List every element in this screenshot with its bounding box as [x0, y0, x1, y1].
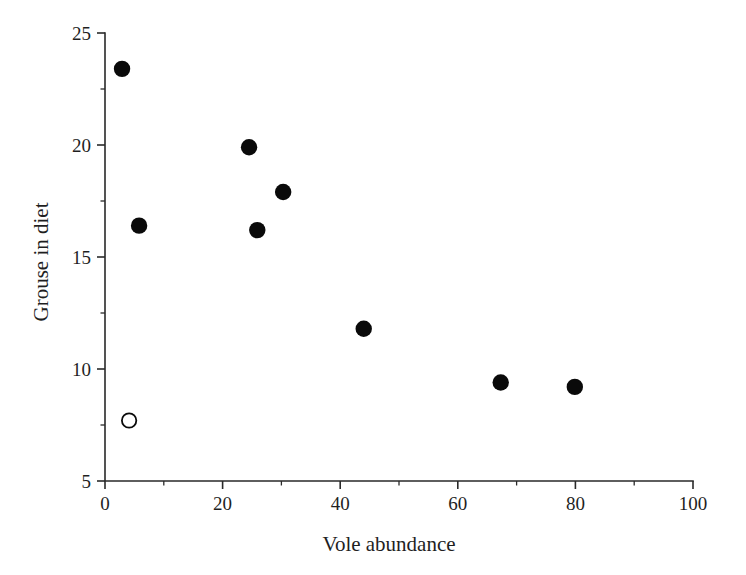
data-point-filled — [356, 320, 372, 336]
data-point-filled — [241, 139, 257, 155]
plot-canvas: 510152025020406080100Vole abundanceGrous… — [0, 0, 746, 575]
data-points-group — [114, 61, 583, 428]
data-point-filled — [493, 374, 509, 390]
axis-spines — [105, 33, 693, 481]
data-point-open — [122, 413, 136, 427]
y-tick-label: 5 — [82, 471, 92, 492]
y-tick-label: 25 — [72, 23, 91, 44]
y-tick-label: 15 — [72, 247, 91, 268]
x-tick-label: 100 — [679, 493, 708, 514]
x-axis-title: Vole abundance — [322, 532, 455, 556]
data-point-filled — [249, 222, 265, 238]
x-tick-label: 20 — [213, 493, 232, 514]
data-point-filled — [567, 379, 583, 395]
data-point-filled — [131, 217, 147, 233]
data-point-filled — [275, 184, 291, 200]
y-tick-label: 10 — [72, 359, 91, 380]
y-tick-label: 20 — [72, 135, 91, 156]
scatter-plot-figure: 510152025020406080100Vole abundanceGrous… — [0, 0, 746, 575]
y-axis-title: Grouse in diet — [29, 202, 53, 321]
x-tick-label: 40 — [331, 493, 350, 514]
x-tick-label: 0 — [100, 493, 110, 514]
x-tick-label: 80 — [566, 493, 585, 514]
data-point-filled — [114, 61, 130, 77]
x-tick-label: 60 — [448, 493, 467, 514]
